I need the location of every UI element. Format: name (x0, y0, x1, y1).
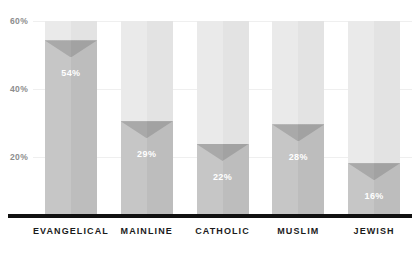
bar-group[interactable]: 54% (45, 21, 97, 215)
bar-group[interactable]: 29% (121, 21, 173, 215)
bar-group[interactable]: 28% (272, 21, 324, 215)
bar-notch-icon (45, 40, 97, 57)
bar-group[interactable]: 16% (348, 21, 400, 215)
y-axis-tick-40: 40% (0, 84, 28, 94)
bar-value-label: 54% (45, 68, 97, 78)
bar-notch-icon (121, 121, 173, 138)
x-axis-label-jewish: JEWISH (328, 226, 420, 236)
axis-baseline (8, 214, 412, 218)
bar-value-label: 29% (121, 149, 173, 159)
bar-value-label: 22% (197, 172, 249, 182)
bar-fill[interactable]: 22% (197, 144, 249, 215)
bar-notch-icon (348, 163, 400, 180)
bar-value-label: 28% (272, 152, 324, 162)
y-axis-tick-20: 20% (0, 152, 28, 162)
bar-fill[interactable]: 16% (348, 163, 400, 215)
bar-notch-icon (272, 124, 324, 141)
bar-fill[interactable]: 54% (45, 40, 97, 215)
plot-area: 54%29%22%28%16% (33, 21, 412, 215)
bar-fill[interactable]: 28% (272, 124, 324, 215)
bar-notch-icon (197, 144, 249, 161)
bar-value-label: 16% (348, 191, 400, 201)
bar-group[interactable]: 22% (197, 21, 249, 215)
cropped-title-fragment (22, 0, 352, 3)
bar-chart: 60% 40% 20% 54%29%22%28%16% EVANGELICALM… (0, 0, 420, 253)
y-axis-tick-60: 60% (0, 16, 28, 26)
bar-fill[interactable]: 29% (121, 121, 173, 215)
